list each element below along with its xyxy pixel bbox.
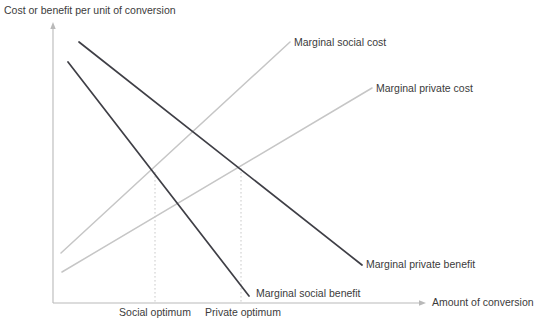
externality-diagram: Cost or benefit per unit of conversion A…: [0, 0, 542, 335]
marginal-social-benefit-label: Marginal social benefit: [256, 287, 360, 300]
marginal-private-benefit-curve: [79, 42, 362, 265]
diagram-canvas: [0, 0, 542, 335]
private-optimum-tick-label: Private optimum: [205, 306, 281, 318]
y-axis-arrowhead: [50, 22, 55, 29]
marginal-social-cost-curve: [61, 42, 290, 253]
marginal-social-benefit-curve: [68, 62, 249, 296]
benefit-curves-group: [68, 42, 362, 296]
y-axis-title: Cost or benefit per unit of conversion: [4, 4, 176, 17]
marginal-private-benefit-label: Marginal private benefit: [366, 258, 475, 271]
x-axis-arrowhead: [419, 300, 426, 305]
x-axis-title: Amount of conversion: [432, 296, 534, 309]
cost-curves-group: [61, 42, 372, 272]
marginal-social-cost-label: Marginal social cost: [294, 36, 386, 49]
marginal-private-cost-label: Marginal private cost: [376, 82, 473, 95]
optimum-guide-lines: [155, 168, 241, 303]
social-optimum-tick-label: Social optimum: [119, 306, 191, 318]
